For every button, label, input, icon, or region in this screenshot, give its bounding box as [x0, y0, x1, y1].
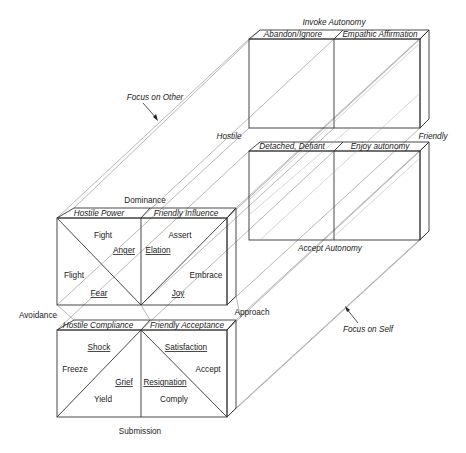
focus-on-other-arrow — [143, 103, 158, 121]
label-submission: Submission — [119, 427, 162, 436]
item-flight: Flight — [64, 271, 85, 280]
title-hostile-power: Hostile Power — [74, 209, 125, 218]
item-comply: Comply — [160, 395, 189, 404]
item-elation: Elation — [145, 246, 170, 255]
item-fight: Fight — [94, 231, 113, 240]
item-anger: Anger — [113, 246, 135, 255]
title-abandon-ignore: Abandon/Ignore — [263, 30, 323, 39]
title-empathic-affirmation: Empathic Affirmation — [342, 30, 418, 39]
item-yield: Yield — [94, 395, 112, 404]
item-fear: Fear — [91, 289, 108, 298]
title-enjoy-autonomy: Enjoy autonomy — [351, 142, 411, 151]
label-avoidance: Avoidance — [19, 311, 58, 320]
item-freeze: Freeze — [62, 365, 88, 374]
emotion-cube-diagram: Invoke Autonomy Abandon/Ignore Empathic … — [0, 0, 466, 453]
item-satisfaction: Satisfaction — [165, 343, 208, 352]
label-dominance: Dominance — [124, 196, 166, 205]
title-hostile-compliance: Hostile Compliance — [63, 321, 134, 330]
label-focus-on-other: Focus on Other — [127, 93, 184, 102]
label-hostile: Hostile — [216, 132, 241, 141]
item-embrace: Embrace — [190, 271, 223, 280]
item-assert: Assert — [168, 231, 192, 240]
title-friendly-acceptance: Friendly Acceptance — [150, 321, 224, 330]
title-friendly-influence: Friendly Influence — [154, 209, 219, 218]
label-accept-autonomy: Accept Autonomy — [297, 244, 363, 253]
item-resignation: Resignation — [143, 378, 187, 387]
title-detached-defiant: Detached, Defiant — [259, 142, 325, 151]
item-shock: Shock — [88, 343, 112, 352]
focus-on-self-arrow — [345, 306, 358, 323]
label-friendly: Friendly — [418, 132, 448, 141]
label-focus-on-self: Focus on Self — [343, 325, 394, 334]
item-accept: Accept — [195, 365, 221, 374]
label-approach: Approach — [234, 308, 269, 317]
item-grief: Grief — [115, 378, 133, 387]
item-joy: Joy — [172, 289, 186, 298]
label-invoke-autonomy: Invoke Autonomy — [303, 18, 367, 27]
